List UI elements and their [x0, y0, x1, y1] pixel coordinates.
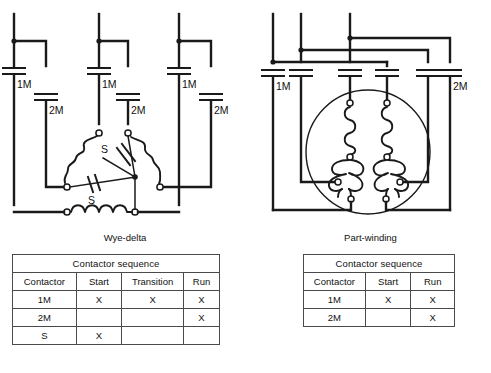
cell-contactor: 2M — [13, 309, 77, 327]
label-1m-b: 1M — [102, 78, 117, 90]
pw-winding-left-upper — [345, 107, 356, 155]
header-start: Start — [76, 273, 122, 291]
label-s-lower: S — [88, 194, 95, 206]
label-2m-a: 2M — [49, 104, 64, 116]
pw-motor-terminal-t1 — [347, 100, 353, 106]
table-row: 1M X X X — [13, 291, 220, 309]
cell-contactor: 1M — [13, 291, 77, 309]
table-row: 1M X X — [304, 291, 455, 309]
table-header-row: Contactor Start Transition Run — [13, 273, 220, 291]
table-header-row: Contactor Start Run — [304, 273, 455, 291]
cell-run: X — [411, 291, 455, 309]
table-title-wye: Contactor sequence — [13, 255, 220, 273]
pw-bottom-rail-right — [386, 202, 450, 210]
pw-winding-right-upper — [382, 107, 393, 155]
caption-wye-delta: Wye-delta — [0, 232, 250, 243]
motor-winding-bottom — [71, 205, 132, 212]
table-title-row: Contactor sequence — [13, 255, 220, 273]
wire-2m-c-bottom — [160, 101, 211, 187]
cell-contactor: 2M — [304, 309, 366, 327]
cell-run — [184, 327, 220, 345]
cell-transition: X — [122, 291, 184, 309]
pw-label-2m: 2M — [453, 80, 468, 92]
pw-winding-right-lower-outer — [388, 160, 408, 191]
header-start: Start — [365, 273, 411, 291]
header-contactor: Contactor — [13, 273, 77, 291]
tap-branch-l3 — [179, 41, 211, 66]
header-run: Run — [411, 273, 455, 291]
motor-body-circle — [306, 90, 430, 214]
figure-page: 1M 1M 1M 2M 2M — [0, 0, 491, 373]
cell-run: X — [184, 291, 220, 309]
part-winding-schematic: 1M 2M — [250, 0, 491, 232]
header-transition: Transition — [122, 273, 184, 291]
cell-run: X — [184, 309, 220, 327]
pw-winding-left-lower-outer — [329, 160, 349, 191]
tap-branch-l1 — [14, 41, 46, 66]
cell-start: X — [365, 291, 411, 309]
cell-start: X — [76, 291, 122, 309]
cell-transition — [122, 327, 184, 345]
contactor-sequence-table-part-winding: Contactor sequence Contactor Start Run 1… — [303, 254, 455, 327]
pw-junction-l1 — [270, 59, 275, 64]
table-row: 2M X — [304, 309, 455, 327]
wire-s-upper-left-leg — [103, 158, 135, 177]
schematic-area: 1M 1M 1M 2M 2M — [0, 0, 491, 248]
tap-branch-l2 — [99, 41, 128, 66]
wire-s-lower — [70, 177, 135, 187]
label-1m-a: 1M — [17, 78, 32, 90]
cell-contactor: 1M — [304, 291, 366, 309]
motor-terminal-t2 — [125, 130, 131, 136]
wye-delta-schematic: 1M 1M 1M 2M 2M — [0, 0, 250, 232]
pw-motor-terminal-t3 — [335, 179, 341, 185]
pw-junction-l2 — [298, 47, 303, 52]
label-2m-b: 2M — [131, 104, 146, 116]
cell-start — [76, 309, 122, 327]
motor-terminal-t4 — [157, 184, 163, 190]
label-2m-c: 2M — [214, 104, 229, 116]
caption-part-winding: Part-winding — [250, 232, 491, 243]
pw-junction-l3 — [347, 35, 352, 40]
pw-bus-l2-to-2m — [301, 50, 428, 62]
table-title-part: Contactor sequence — [304, 255, 455, 273]
table-title-row: Contactor sequence — [304, 255, 455, 273]
pw-winding-left-lower-inner — [349, 160, 363, 191]
contactor-sequence-table-wye-delta: Contactor sequence Contactor Start Trans… — [12, 254, 220, 345]
pw-bottom-rail-left — [273, 202, 351, 210]
cell-transition — [122, 309, 184, 327]
cell-start — [365, 309, 411, 327]
table-row: S X — [13, 327, 220, 345]
label-1m-c: 1M — [182, 78, 197, 90]
motor-terminal-t3 — [64, 184, 70, 190]
cell-run: X — [411, 309, 455, 327]
pw-motor-terminal-t2 — [384, 100, 390, 106]
table-row: 2M X — [13, 309, 220, 327]
cell-start: X — [76, 327, 122, 345]
pw-winding-right-lower-inner — [374, 160, 388, 191]
header-run: Run — [184, 273, 220, 291]
cell-contactor: S — [13, 327, 77, 345]
header-contactor: Contactor — [304, 273, 366, 291]
label-s-upper: S — [101, 143, 108, 155]
pw-motor-terminal-t4 — [397, 179, 403, 185]
motor-winding-left — [65, 136, 97, 183]
pw-label-1m: 1M — [276, 80, 291, 92]
